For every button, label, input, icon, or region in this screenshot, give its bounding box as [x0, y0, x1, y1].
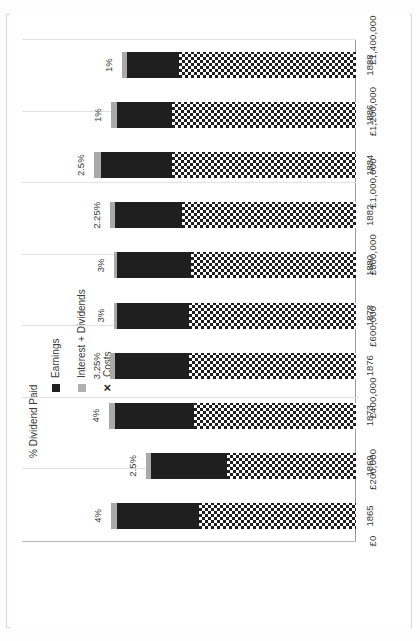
bar-segment-costs — [172, 152, 356, 178]
bar-segment-interest-dividends — [109, 402, 115, 428]
bar-segment-interest-dividends — [114, 252, 117, 278]
bar-segment-costs — [227, 452, 356, 478]
bar-segment-costs — [182, 202, 356, 228]
bar-segment-interest-dividends — [146, 452, 151, 478]
bar-segment-interest-dividends — [94, 152, 101, 178]
bar-chart: % Dividend Paid Earnings Interest + Divi… — [10, 14, 410, 628]
chart-page: % Dividend Paid Earnings Interest + Divi… — [0, 0, 420, 641]
bar-segment-interest-dividends — [114, 302, 118, 328]
bar-segment-interest-dividends — [110, 202, 115, 228]
point-label-dividend-pct: 4% — [92, 509, 103, 523]
gridline — [22, 182, 356, 183]
category-label: 1880 — [364, 254, 375, 275]
bar-segment-interest-dividends — [111, 502, 118, 528]
category-label: 1865 — [364, 505, 375, 526]
bar-segment-costs — [191, 252, 356, 278]
point-label-dividend-pct: 2.5% — [75, 154, 86, 176]
point-label-dividend-pct: 3% — [95, 308, 106, 322]
point-label-dividend-pct: 3% — [95, 258, 106, 272]
bar-segment-interest-dividends — [111, 102, 117, 128]
bar-segment-interest-dividends — [122, 52, 127, 78]
category-label: 1886 — [364, 104, 375, 125]
category-label: 1882 — [364, 204, 375, 225]
category-label: 1878 — [364, 304, 375, 325]
category-label: 1873 — [364, 405, 375, 426]
rotated-chart-wrapper: % Dividend Paid Earnings Interest + Divi… — [0, 0, 420, 641]
point-label-dividend-pct: 2.25% — [91, 201, 102, 228]
category-label: 1888 — [364, 54, 375, 75]
gridline — [22, 39, 356, 40]
bar-segment-costs — [179, 52, 356, 78]
bar-segment-costs — [194, 402, 356, 428]
gridline — [22, 396, 356, 397]
point-label-dividend-pct: 3.25% — [91, 352, 102, 379]
category-label: 1869 — [364, 455, 375, 476]
bar-segment-interest-dividends — [110, 352, 115, 378]
point-label-dividend-pct: 4% — [90, 408, 101, 422]
bar-segment-costs — [199, 502, 356, 528]
point-label-dividend-pct: 2.5% — [127, 455, 138, 477]
bar-segment-costs — [172, 102, 356, 128]
bar-segment-costs — [189, 302, 356, 328]
point-label-dividend-pct: 1% — [103, 58, 114, 72]
plot-area: £0£200,000£400,000£600,000£800,000£1,000… — [22, 40, 356, 542]
bar-segment-costs — [189, 352, 356, 378]
category-label: 1876 — [364, 355, 375, 376]
point-label-dividend-pct: 1% — [92, 108, 103, 122]
category-label: 1884 — [364, 154, 375, 175]
